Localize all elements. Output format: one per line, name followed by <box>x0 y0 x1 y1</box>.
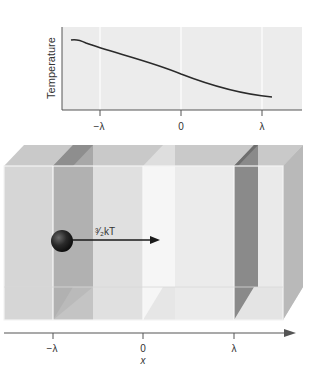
y-axis-label: Temperature <box>45 37 57 99</box>
axis-label-neg-lambda: −λ <box>47 343 58 354</box>
temperature-graph: Temperature −λ 0 λ <box>45 27 302 132</box>
graph-tick-label-neg-lambda: −λ <box>94 121 105 132</box>
box-right-side <box>283 145 303 320</box>
x-axis: −λ 0 λ x <box>4 329 296 366</box>
diagram-canvas: Temperature −λ 0 λ <box>0 0 310 379</box>
axis-label-lambda: λ <box>232 343 237 354</box>
plane-lambda-gap <box>258 166 283 287</box>
axis-title-x: x <box>140 355 147 366</box>
plot-area <box>62 27 302 110</box>
box-front-left <box>4 166 53 320</box>
energy-label: ³⁄₂kT <box>95 226 115 237</box>
axis-label-zero: 0 <box>140 343 146 354</box>
graph-tick-label-zero: 0 <box>178 121 184 132</box>
x-axis-arrowhead-icon <box>284 329 296 337</box>
graph-tick-label-lambda: λ <box>260 121 265 132</box>
molecule-sphere <box>51 230 73 252</box>
gas-box: ³⁄₂kT <box>4 145 303 320</box>
